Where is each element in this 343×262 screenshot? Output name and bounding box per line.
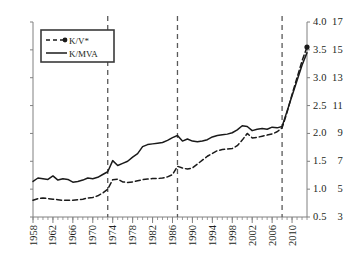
- legend-label-1: K/V*: [69, 37, 89, 46]
- x-tick-label: 1974: [107, 225, 118, 246]
- x-tick-label: 1990: [187, 225, 198, 246]
- legend-label-2: K/MVA: [69, 50, 98, 59]
- chart-plot-area: [0, 0, 343, 262]
- x-tick-label: 2010: [287, 225, 298, 246]
- x-tick-label: 1978: [127, 225, 138, 246]
- legend-sample-marker: [63, 38, 68, 43]
- y-right-tick-label: 3.5: [313, 45, 327, 56]
- y-right-tick-label: 0.5: [313, 212, 327, 223]
- series-end-marker: [304, 44, 309, 49]
- x-tick-label: 1970: [87, 225, 98, 246]
- series-line-2: [33, 53, 307, 183]
- y-right-tick-label: 3.0: [313, 72, 327, 83]
- x-tick-label: 1958: [28, 225, 39, 246]
- y-right-tick-label: 2.5: [313, 100, 327, 111]
- y-right-tick-label: 2.0: [313, 128, 327, 139]
- x-tick-label: 2006: [267, 225, 278, 246]
- y-right-tick-label: 1.5: [313, 156, 327, 167]
- x-tick-label: 2002: [247, 225, 258, 246]
- y-right-tick-label: 4.0: [313, 17, 327, 28]
- series-line-1: [33, 47, 307, 200]
- x-tick-label: 1998: [227, 225, 238, 246]
- x-tick-label: 1994: [207, 225, 218, 246]
- x-tick-label: 1966: [67, 225, 78, 246]
- y-right-tick-label: 1.0: [313, 184, 327, 195]
- chart-container: 3579111315170.51.01.52.02.53.03.54.01958…: [0, 0, 343, 262]
- x-tick-label: 1982: [147, 225, 158, 246]
- x-tick-label: 1986: [167, 225, 178, 246]
- x-tick-label: 1962: [47, 225, 58, 246]
